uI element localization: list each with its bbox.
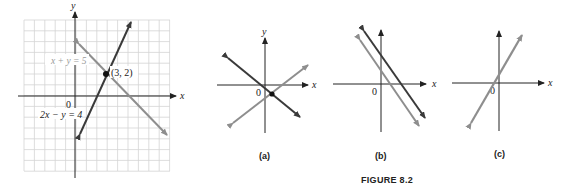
origin-label: 0: [372, 86, 377, 97]
panel-caption: (b): [375, 151, 387, 161]
panel-caption: (a): [259, 151, 270, 161]
panel-caption: (c): [494, 149, 505, 159]
figure-caption: FIGURE 8.2: [361, 175, 413, 185]
panel-a: x y 0 (a): [217, 26, 317, 161]
coincident-lines: [471, 35, 522, 123]
intersection-point: [269, 91, 274, 96]
panel-b: x 0 (b) FIGURE 8.2: [333, 30, 437, 185]
intersection-point: [103, 71, 109, 77]
x-axis-label: x: [547, 77, 553, 88]
line-x-plus-y-eq-5: [79, 44, 167, 135]
x-axis-label: x: [311, 79, 317, 90]
figure-canvas: x y 0 x + y = 5 2x − y = 4 (3, 2) x y 0 …: [0, 0, 566, 190]
panel-c: x 0 (c): [452, 31, 553, 159]
light-line: [360, 40, 419, 126]
main-graph: x y 0 x + y = 5 2x − y = 4 (3, 2): [18, 0, 185, 178]
equation-2-label: 2x − y = 4: [40, 109, 82, 120]
y-axis-label: y: [261, 26, 267, 37]
x-axis-label: x: [179, 90, 185, 101]
equation-1-label: x + y = 5: [50, 56, 87, 66]
x-axis-label: x: [431, 78, 437, 89]
y-axis-label: y: [70, 0, 76, 11]
dark-line: [364, 31, 425, 118]
origin-label: 0: [256, 87, 261, 98]
intersection-label: (3, 2): [111, 67, 133, 79]
dark-line: [228, 58, 300, 117]
